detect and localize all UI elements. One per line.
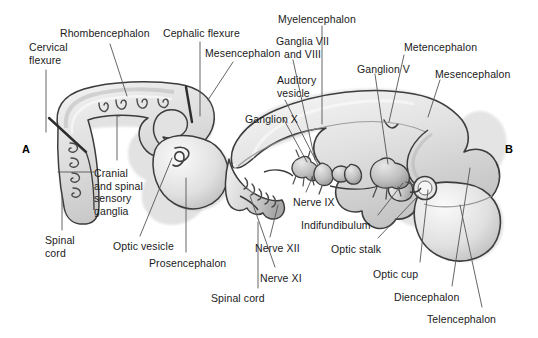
label-rhombencephalon: Rhombencephalon: [60, 27, 150, 40]
panel-letter-a: A: [22, 143, 30, 155]
label-indifundibulum: Indifundibulum: [301, 219, 371, 232]
label-ganglion-x: Ganglion X: [245, 113, 298, 126]
label-optic-cup: Optic cup: [373, 268, 418, 281]
label-metencephalon: Metencephalon: [404, 41, 477, 54]
figure-canvas: AB Cervical flexureRhombencephalonCephal…: [0, 0, 538, 338]
label-nerve-ix: Nerve IX: [293, 196, 335, 209]
label-cervical-flexure: Cervical flexure: [29, 41, 68, 66]
label-ganglion-v: Ganglion V: [357, 63, 410, 76]
label-ganglia-vii-viii: Ganglia VII and VIII: [276, 35, 329, 60]
label-spinal-cord-b: Spinal cord: [211, 292, 265, 305]
label-nerve-xi: Nerve XI: [260, 272, 302, 285]
leader-mesencephalon-a: [208, 62, 233, 100]
label-optic-stalk: Optic stalk: [331, 243, 381, 256]
label-optic-vesicle: Optic vesicle: [113, 240, 174, 253]
label-diencephalon: Diencephalon: [394, 291, 459, 304]
label-mesencephalon-a: Mesencephalon: [205, 47, 280, 60]
nerve-ix-strand: [319, 186, 322, 194]
label-cephalic-flexure: Cephalic flexure: [163, 27, 240, 40]
label-auditory-vesicle: Auditory vesicle: [277, 74, 316, 99]
label-prosencephalon: Prosencephalon: [149, 257, 226, 270]
label-mesencephalon-b: Mesencephalon: [435, 68, 510, 81]
ganglia-vii-viii-shape: [345, 164, 362, 184]
label-nerve-xii: Nerve XII: [255, 242, 300, 255]
label-telencephalon: Telencephalon: [427, 313, 496, 326]
panel-letter-b: B: [505, 143, 513, 155]
nerve-xii-strand: [264, 170, 293, 176]
label-cranial-spinal-ganglia: Cranial and spinal sensory ganglia: [94, 167, 143, 217]
label-myelencephalon: Myelencephalon: [278, 13, 356, 26]
label-spinal-cord-a: Spinal cord: [45, 234, 75, 259]
